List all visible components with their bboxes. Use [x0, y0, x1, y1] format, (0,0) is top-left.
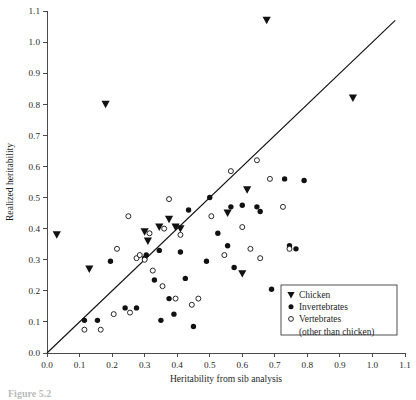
point-invertebrate	[207, 195, 212, 200]
point-vertebrate	[228, 169, 233, 174]
point-invertebrate	[293, 246, 298, 251]
x-axis-title: Heritability from sib analysis	[170, 373, 282, 384]
point-vertebrate	[137, 253, 142, 258]
series-vertebrates	[82, 158, 292, 332]
x-tick-label: 1.1	[399, 360, 411, 370]
x-tick-label: 0.8	[302, 360, 314, 370]
legend-label-continuation: (other than chicken)	[299, 327, 375, 338]
x-tick-label: 0.1	[74, 360, 86, 370]
point-vertebrate	[196, 296, 201, 301]
x-tick-label: 0.0	[41, 360, 53, 370]
legend-open-circle-icon	[289, 317, 294, 322]
point-invertebrate	[82, 318, 87, 323]
y-tick-label: 1.0	[29, 37, 41, 47]
point-invertebrate	[257, 209, 262, 214]
y-tick-label: 0.1	[29, 317, 41, 327]
point-vertebrate	[147, 231, 152, 236]
point-vertebrate	[254, 158, 259, 163]
point-invertebrate	[301, 178, 306, 183]
point-chicken	[349, 95, 357, 102]
y-tick-label: 0.8	[29, 100, 41, 110]
point-invertebrate	[228, 204, 233, 209]
point-vertebrate	[142, 257, 147, 262]
x-tick-label: 0.3	[139, 360, 151, 370]
point-invertebrate	[183, 276, 188, 281]
point-vertebrate	[222, 253, 227, 258]
point-vertebrate	[126, 214, 131, 219]
series-chicken	[53, 17, 357, 278]
point-vertebrate	[280, 204, 285, 209]
chart-legend: ChickenInvertebratesVertebrates(other th…	[281, 285, 397, 338]
point-vertebrate	[150, 268, 155, 273]
point-invertebrate	[95, 318, 100, 323]
y-tick-label: 0.2	[29, 286, 41, 296]
point-vertebrate	[167, 197, 172, 202]
y-tick-label: 0.9	[29, 68, 41, 78]
point-chicken	[85, 266, 93, 273]
point-invertebrate	[157, 248, 162, 253]
point-vertebrate	[173, 296, 178, 301]
y-tick-label: 0.3	[29, 255, 41, 265]
scatter-plot: 0.00.10.20.30.40.50.60.70.80.91.01.10.00…	[0, 0, 416, 400]
x-tick-label: 1.0	[367, 360, 379, 370]
point-chicken	[144, 238, 152, 245]
y-tick-label: 1.1	[29, 6, 41, 16]
figure-caption-clip: Figure 5.2	[0, 390, 416, 400]
point-invertebrate	[191, 324, 196, 329]
point-vertebrate	[162, 226, 167, 231]
point-vertebrate	[287, 246, 292, 251]
legend-label-2: Vertebrates	[299, 314, 342, 324]
point-vertebrate	[82, 327, 87, 332]
point-invertebrate	[225, 243, 230, 248]
point-chicken	[101, 101, 109, 108]
point-invertebrate	[204, 259, 209, 264]
point-invertebrate	[122, 305, 127, 310]
point-vertebrate	[111, 312, 116, 317]
point-invertebrate	[254, 204, 259, 209]
point-invertebrate	[158, 318, 163, 323]
x-tick-label: 0.5	[204, 360, 216, 370]
point-chicken	[53, 231, 61, 238]
point-chicken	[243, 186, 251, 193]
point-chicken	[224, 210, 232, 217]
point-vertebrate	[98, 327, 103, 332]
point-invertebrate	[178, 249, 183, 254]
point-invertebrate	[282, 176, 287, 181]
point-invertebrate	[166, 296, 171, 301]
point-vertebrate	[160, 284, 165, 289]
y-axis-title: Realized heritability	[4, 143, 15, 221]
y-tick-label: 0.7	[29, 131, 41, 141]
point-invertebrate	[240, 203, 245, 208]
legend-filled-circle-icon	[289, 304, 294, 309]
point-vertebrate	[189, 302, 194, 307]
point-vertebrate	[127, 310, 132, 315]
point-vertebrate	[209, 214, 214, 219]
point-vertebrate	[267, 176, 272, 181]
x-tick-label: 0.9	[334, 360, 346, 370]
point-invertebrate	[269, 287, 274, 292]
point-invertebrate	[186, 207, 191, 212]
figure-caption: Figure 5.2	[8, 390, 51, 399]
point-invertebrate	[231, 265, 236, 270]
point-vertebrate	[114, 246, 119, 251]
point-chicken	[165, 216, 173, 223]
legend-label-0: Chicken	[299, 290, 331, 300]
figure-container: 0.00.10.20.30.40.50.60.70.80.91.01.10.00…	[0, 0, 416, 400]
point-chicken	[263, 17, 271, 24]
point-invertebrate	[108, 259, 113, 264]
point-vertebrate	[258, 256, 263, 261]
axis-titles: Heritability from sib analysisRealized h…	[4, 143, 282, 384]
point-invertebrate	[134, 305, 139, 310]
point-invertebrate	[152, 277, 157, 282]
y-tick-label: 0.6	[29, 162, 41, 172]
x-tick-label: 0.7	[269, 360, 281, 370]
point-vertebrate	[240, 225, 245, 230]
point-vertebrate	[248, 246, 253, 251]
y-tick-label: 0.5	[29, 193, 41, 203]
y-tick-label: 0.0	[29, 348, 41, 358]
x-tick-label: 0.4	[171, 360, 183, 370]
point-invertebrate	[215, 231, 220, 236]
x-tick-label: 0.6	[237, 360, 249, 370]
legend-label-1: Invertebrates	[299, 302, 348, 312]
point-vertebrate	[178, 232, 183, 237]
